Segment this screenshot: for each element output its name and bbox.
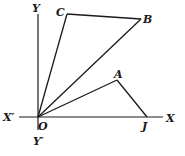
label-b: B xyxy=(142,13,152,26)
label-j: J xyxy=(140,120,148,133)
label-y: Y xyxy=(32,2,41,15)
label-a: A xyxy=(113,68,123,81)
label-o: O xyxy=(38,120,48,133)
segment-cb xyxy=(67,14,141,19)
label-x-prime: X′ xyxy=(2,111,15,124)
segment-oc xyxy=(38,14,67,117)
segment-ob xyxy=(38,19,141,117)
segment-aj xyxy=(117,80,147,117)
segment-oa xyxy=(38,80,117,117)
label-c: C xyxy=(56,6,65,19)
label-x: X xyxy=(165,112,175,125)
geometry-diagram: Y C B A X′ O J X Y′ xyxy=(0,0,185,156)
label-y-prime: Y′ xyxy=(33,135,44,148)
